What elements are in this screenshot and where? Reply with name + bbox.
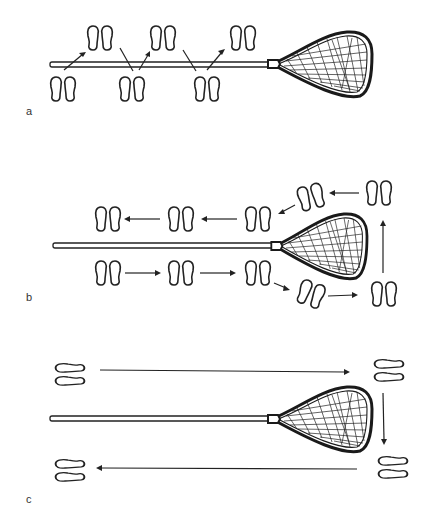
footprint-pair [120, 77, 145, 101]
footprint-pair [246, 207, 271, 231]
panel-label-b: b [26, 291, 32, 303]
footprint-pair [367, 181, 392, 205]
footprint-pair [56, 364, 85, 385]
stick-shaft [50, 416, 270, 421]
arrow [183, 50, 196, 71]
arrow [381, 393, 387, 445]
arrow [100, 369, 350, 375]
panel-b: b [26, 181, 396, 309]
panel-label-a: a [26, 105, 33, 117]
arrow [380, 220, 386, 273]
arrow [125, 270, 161, 276]
footprint-pair [88, 26, 113, 50]
stick-shaft [50, 62, 270, 67]
footprint-pair [96, 207, 121, 231]
stick-head [271, 214, 367, 279]
footprint-pair [56, 460, 85, 481]
panel-a: a [26, 26, 372, 117]
arrow [274, 283, 290, 291]
stick-head [268, 387, 372, 452]
footprint-pair [295, 279, 326, 310]
arrow [328, 292, 358, 298]
arrow [201, 216, 237, 222]
arrow [329, 190, 359, 196]
footprint-pair [231, 26, 256, 50]
stick-shaft [53, 243, 275, 248]
arrow [200, 270, 236, 276]
footprint-pair [372, 282, 397, 306]
stick-head [268, 32, 372, 97]
footprint-pair [195, 77, 220, 101]
panel-c: c [26, 360, 407, 505]
footprint-pair [169, 207, 194, 231]
arrow [124, 216, 160, 222]
footprint-pair [96, 261, 121, 285]
footprint-pair [151, 26, 176, 50]
footprint-pair [296, 182, 326, 212]
arrow [278, 205, 295, 214]
arrow [96, 465, 357, 471]
footprint-pair [51, 77, 76, 101]
footprint-pair [379, 457, 408, 478]
lacrosse-footwork-diagram: a [0, 0, 432, 516]
footprint-pair [375, 360, 404, 381]
footprint-pair [169, 261, 194, 285]
panel-label-c: c [26, 493, 32, 505]
footprint-pair [246, 261, 271, 285]
